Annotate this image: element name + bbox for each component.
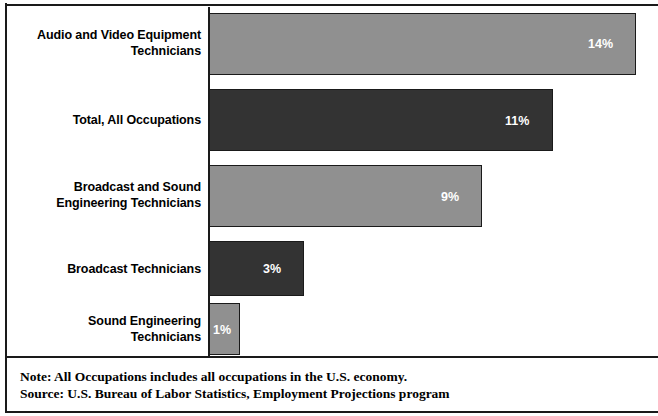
bar-value-label: 9% [441, 191, 459, 204]
bar-value-label: 11% [505, 115, 529, 128]
bar-category-label: Audio and Video Equipment Technicians [0, 27, 201, 59]
bar-category-label: Total, All Occupations [0, 112, 201, 128]
bar-category-label-line2: Technicians [131, 44, 201, 58]
bar-row: Broadcast Technicians 3% [7, 241, 658, 296]
bar-category-label-line1: Total, All Occupations [73, 113, 201, 127]
bar [209, 13, 636, 75]
bar-category-label-line2: Engineering Technicians [56, 196, 201, 210]
bar-category-label: Broadcast Technicians [0, 261, 201, 277]
bar-category-label-line2: Technicians [131, 330, 201, 344]
bar-category-label: Broadcast and Sound Engineering Technici… [0, 179, 201, 211]
chart-figure: Audio and Video Equipment Technicians 14… [0, 0, 658, 416]
footer-source: Source: U.S. Bureau of Labor Statistics,… [20, 386, 450, 402]
bar-value-label: 14% [588, 38, 613, 51]
bar-row: Total, All Occupations 11% [7, 89, 658, 151]
bar [209, 89, 553, 151]
bar [209, 241, 304, 296]
bar-row: Audio and Video Equipment Technicians 14… [7, 13, 658, 75]
bar-value-label: 3% [263, 263, 281, 276]
plot-area: Audio and Video Equipment Technicians 14… [7, 7, 658, 356]
bar-row: Broadcast and Sound Engineering Technici… [7, 165, 658, 227]
footer-divider [5, 356, 658, 358]
bar-category-label-line1: Broadcast and Sound [74, 180, 201, 194]
bar-row: Sound Engineering Technicians 1% [7, 303, 658, 355]
frame-top-border [5, 4, 658, 6]
bar-category-label: Sound Engineering Technicians [0, 313, 201, 345]
bar-category-label-line1: Sound Engineering [88, 314, 201, 328]
bar-value-label: 1% [213, 324, 231, 337]
frame-bottom-border [5, 411, 658, 413]
bar-category-label-line1: Broadcast Technicians [67, 262, 201, 276]
footer-note: Note: All Occupations includes all occup… [20, 369, 407, 385]
bar-category-label-line1: Audio and Video Equipment [37, 28, 201, 42]
